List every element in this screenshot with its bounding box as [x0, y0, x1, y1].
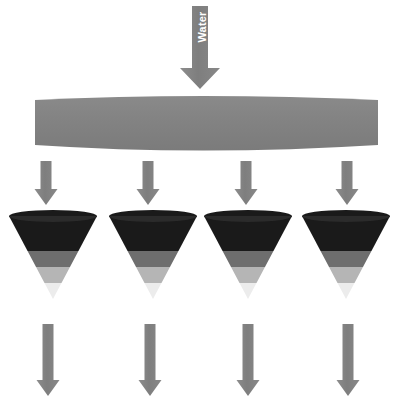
- outlet-arrow-1: [37, 324, 60, 396]
- water-funnel-diagram: Water: [0, 0, 402, 407]
- water-inlet-arrow: [180, 6, 220, 89]
- outlet-arrow-group: [37, 324, 360, 396]
- distribution-bar: [35, 96, 378, 151]
- feed-arrow-1: [35, 161, 58, 205]
- pale-band: [0, 283, 402, 300]
- outlet-arrow-3: [237, 324, 260, 396]
- feed-arrow-3: [235, 161, 258, 205]
- outlet-arrow-4: [337, 324, 360, 396]
- feed-arrow-2: [137, 161, 160, 205]
- diagram-canvas: [0, 0, 402, 407]
- outlet-arrow-2: [139, 324, 162, 396]
- feed-arrow-4: [336, 161, 359, 205]
- feed-arrow-group: [35, 161, 359, 205]
